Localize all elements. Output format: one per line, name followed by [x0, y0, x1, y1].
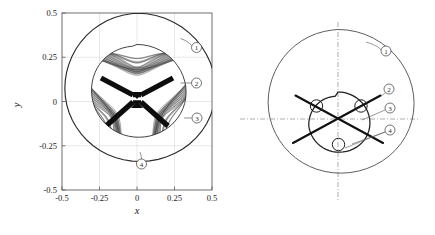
ytick-label-2: 0	[53, 97, 57, 107]
xtick-label-2: 0	[135, 193, 139, 203]
callout-3-left-label: 3	[195, 115, 199, 123]
ytick-label-1: 0.25	[42, 52, 57, 62]
ytick-label-3: -0.25	[39, 141, 57, 151]
xtick-label-1: -0.25	[91, 193, 109, 203]
callout-3-right-label: 3	[388, 105, 392, 113]
ytick-label-0: 0.5	[46, 8, 57, 18]
callout-4-left-label: 4	[140, 161, 144, 169]
figure-root: 0.5 0.25 0 -0.25 -0.5 -0.5 -0.25 0 0.25 …	[0, 0, 435, 235]
callout-2-right-label: 2	[387, 86, 391, 94]
yaxis-title: y	[11, 102, 22, 108]
callout-1-left-label: 1	[195, 44, 199, 52]
xtick-label-3: 0.25	[167, 193, 182, 203]
xtick-label-4: 0.5	[207, 193, 218, 203]
callout-2-left-label: 2	[195, 80, 199, 88]
xtick-label-0: -0.5	[55, 193, 68, 203]
callout-4-right-label: 4	[388, 127, 392, 135]
xaxis-title: x	[134, 205, 140, 216]
callout-1-right-label: 1	[384, 48, 388, 56]
